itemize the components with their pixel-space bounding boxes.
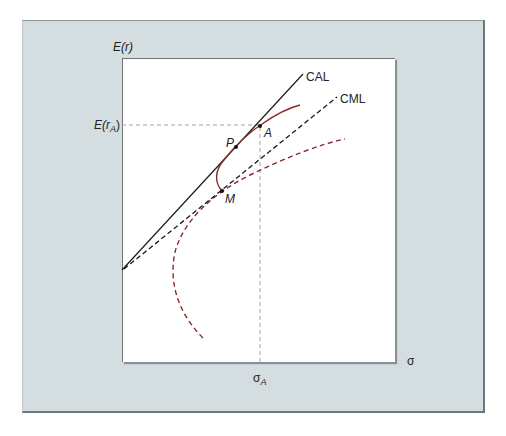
sigma-a-tick-label: σA bbox=[253, 371, 266, 385]
era-close: ) bbox=[116, 118, 120, 132]
era-main: E(r bbox=[94, 118, 110, 132]
y-axis-label: E(r) bbox=[113, 40, 133, 54]
point-a-label: A bbox=[264, 126, 272, 140]
point-p-label: P bbox=[226, 136, 234, 150]
cml-label: CML bbox=[340, 92, 365, 106]
point-a-marker bbox=[258, 124, 262, 128]
era-tick-label: E(rA) bbox=[94, 118, 120, 132]
era-sub: A bbox=[110, 124, 116, 134]
sigma-a-sub: A bbox=[260, 377, 266, 387]
point-m-label: M bbox=[225, 192, 235, 206]
passive-frontier-curve bbox=[173, 139, 345, 338]
x-axis-label: σ bbox=[407, 354, 414, 368]
cal-label: CAL bbox=[306, 70, 329, 84]
point-m-marker bbox=[220, 189, 224, 193]
cal-line bbox=[122, 74, 303, 270]
point-p-marker bbox=[234, 145, 238, 149]
cml-line bbox=[124, 97, 337, 269]
